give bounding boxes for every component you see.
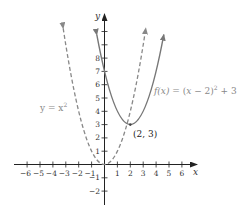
svg-text:8: 8 [95,54,100,63]
svg-text:7: 7 [95,67,100,76]
y-tick-labels: −2 −1 1 2 3 4 5 6 7 8 [89,54,100,196]
svg-text:−4: −4 [46,169,57,178]
svg-text:4: 4 [154,169,159,178]
svg-text:5: 5 [167,169,172,178]
svg-text:2: 2 [128,169,133,178]
svg-text:−2: −2 [89,187,100,196]
vertex-point [129,123,132,126]
svg-text:1: 1 [95,147,100,156]
svg-text:3: 3 [141,169,146,178]
graph-canvas: −6 −5 −4 −3 −2 −1 1 2 3 4 5 6 −2 −1 1 2 … [0,0,251,214]
svg-text:1: 1 [115,169,120,178]
svg-text:−2: −2 [72,169,83,178]
x-tick-labels: −6 −5 −4 −3 −2 −1 1 2 3 4 5 6 [20,169,184,178]
svg-text:−1: −1 [89,173,100,182]
svg-text:3: 3 [95,120,100,129]
svg-text:−5: −5 [33,169,44,178]
svg-text:−6: −6 [20,169,31,178]
svg-text:2: 2 [95,133,100,142]
y-axis-label: y [94,11,101,21]
svg-text:5: 5 [95,94,100,103]
x-axis-label: x [193,167,198,177]
svg-text:6: 6 [180,169,185,178]
svg-text:4: 4 [95,107,100,116]
vertex-label: (2, 3) [133,129,157,139]
svg-text:−3: −3 [59,169,70,178]
svg-text:6: 6 [95,80,100,89]
parent-equation-label: y = x2 [39,101,67,113]
f-equation-label: f(x) = (x − 2)2 + 3 [153,84,237,96]
